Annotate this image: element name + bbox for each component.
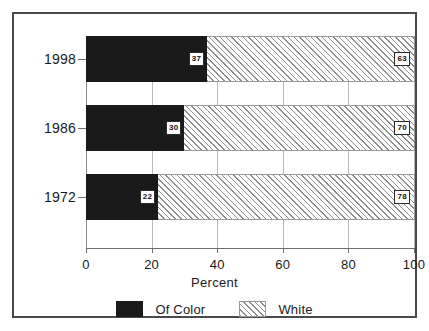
plot-area: 376330702278 <box>86 36 414 248</box>
bar-value-label-of-color: 22 <box>140 190 156 204</box>
bar-segment-white: 78 <box>158 174 415 220</box>
x-tick-40 <box>217 248 218 253</box>
bar-value-label-of-color: 30 <box>166 121 182 135</box>
bar-segment-of-color: 22 <box>86 174 158 220</box>
x-tick-100 <box>414 248 415 253</box>
y-tick-1972 <box>78 197 86 198</box>
bar-row: 3070 <box>86 105 414 151</box>
bar-segment-white: 63 <box>207 36 415 82</box>
bar-row: 2278 <box>86 174 414 220</box>
bar-value-label-of-color: 37 <box>189 52 205 66</box>
y-axis-label-1972: 1972 <box>32 189 76 205</box>
y-tick-1998 <box>78 59 86 60</box>
legend-item-of-color: Of Color <box>116 301 205 317</box>
x-axis-line <box>86 248 415 249</box>
legend-label-white: White <box>278 302 312 317</box>
x-tick-20 <box>152 248 153 253</box>
y-tick-1986 <box>78 128 86 129</box>
x-axis-title: Percent <box>14 275 415 290</box>
x-tick-60 <box>283 248 284 253</box>
bar-row: 3763 <box>86 36 414 82</box>
chart-frame: 376330702278 020406080100 199819861972 P… <box>12 12 417 318</box>
x-tick-0 <box>86 248 87 253</box>
chart-figure: 376330702278 020406080100 199819861972 P… <box>0 0 429 331</box>
x-tick-label-40: 40 <box>210 257 225 272</box>
bar-segment-of-color: 37 <box>86 36 207 82</box>
bar-value-label-white: 70 <box>394 121 410 135</box>
x-tick-label-0: 0 <box>82 257 89 272</box>
legend-item-white: White <box>239 301 312 317</box>
bar-value-label-white: 78 <box>394 190 410 204</box>
solid-black-swatch-icon <box>116 301 143 317</box>
y-axis-label-1986: 1986 <box>32 120 76 136</box>
y-axis-label-1998: 1998 <box>32 51 76 67</box>
x-tick-label-20: 20 <box>144 257 159 272</box>
x-tick-label-60: 60 <box>275 257 290 272</box>
legend-label-of-color: Of Color <box>155 302 205 317</box>
x-tick-80 <box>348 248 349 253</box>
bar-segment-white: 70 <box>184 105 415 151</box>
hatched-swatch-icon <box>239 301 266 317</box>
bar-value-label-white: 63 <box>394 52 410 66</box>
chart-legend: Of Color White <box>14 301 415 317</box>
x-tick-label-100: 100 <box>403 257 425 272</box>
x-tick-label-80: 80 <box>341 257 356 272</box>
bar-segment-of-color: 30 <box>86 105 184 151</box>
